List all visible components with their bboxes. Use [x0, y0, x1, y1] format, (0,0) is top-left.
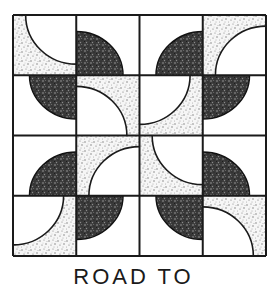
quilt-svg: [12, 14, 267, 257]
quilt-block: [12, 14, 267, 257]
quilt-tile-r2-c1: [13, 75, 76, 135]
quilt-tile-r2-c4: [203, 75, 266, 135]
quilt-tile-r3-c1: [13, 136, 76, 196]
quilt-tile-r3-c3: [140, 136, 203, 196]
quilt-tile-r4-c3: [140, 196, 203, 256]
quilt-tile-r3-c4: [203, 136, 266, 196]
quilt-tile-r1-c3: [140, 15, 203, 75]
quilt-tile-r2-c2: [76, 75, 139, 135]
quilt-tile-r1-c4: [203, 15, 266, 75]
quilt-tile-r4-c4: [203, 196, 266, 256]
quilt-tile-r3-c2: [76, 136, 139, 196]
quilt-tile-r4-c2: [76, 196, 139, 256]
quilt-tile-r4-c1: [13, 196, 76, 256]
quilt-tile-r1-c2: [76, 15, 139, 75]
caption-title: ROAD TO: [0, 266, 267, 288]
quilt-tile-r1-c1: [13, 15, 76, 75]
quilt-tile-r2-c3: [140, 75, 203, 135]
